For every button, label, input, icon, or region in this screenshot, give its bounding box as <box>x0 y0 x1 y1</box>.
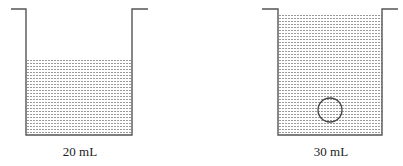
liquid-right <box>279 15 382 135</box>
liquid-left <box>27 58 132 135</box>
beaker-left <box>11 9 148 135</box>
beaker-left-volume-label: 20 mL <box>40 144 120 160</box>
beaker-right-volume-label: 30 mL <box>291 144 371 160</box>
diagram-canvas <box>0 0 403 166</box>
beaker-right <box>262 9 398 135</box>
